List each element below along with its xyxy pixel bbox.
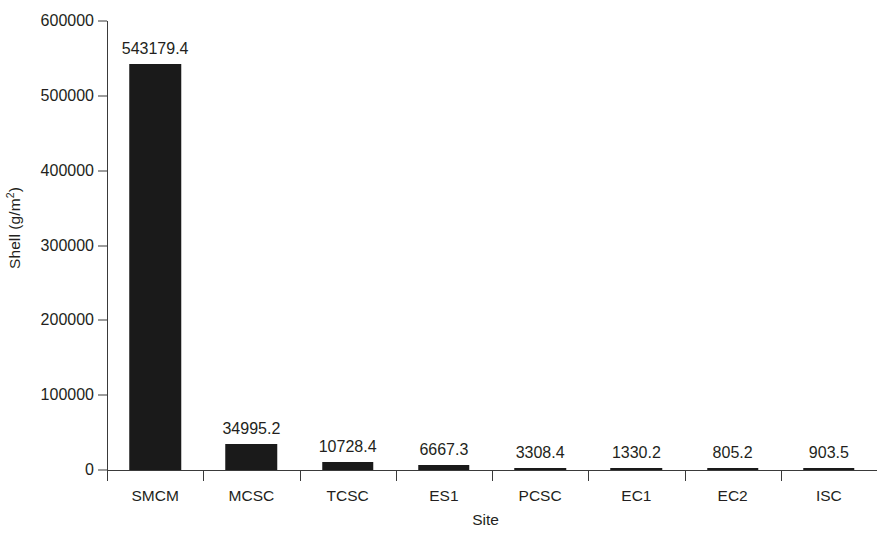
bar-value-label: 1330.2 [612, 444, 661, 462]
bar-group: 3308.4 [492, 21, 588, 470]
y-axis-tick-label: 500000 [0, 87, 94, 105]
bar [226, 444, 277, 470]
bar [418, 465, 469, 470]
x-axis-category-label: EC2 [718, 487, 748, 505]
y-axis-tick-mark [98, 320, 107, 321]
plot-area: 543179.434995.210728.46667.33308.41330.2… [107, 21, 877, 470]
bar [129, 64, 180, 470]
bar-group: 6667.3 [396, 21, 492, 470]
x-axis-tick-mark [685, 470, 686, 481]
x-axis-category-label: ES1 [429, 487, 458, 505]
y-axis-title: Shell (g/m2) [6, 78, 32, 378]
y-axis-tick-mark [98, 470, 107, 471]
x-axis-tick-mark [781, 470, 782, 481]
bar [514, 468, 565, 471]
x-axis-category-label: SMCM [131, 487, 178, 505]
x-axis-category-label: ISC [816, 487, 842, 505]
x-axis-category-label: MCSC [229, 487, 275, 505]
bar-value-label: 10728.4 [319, 438, 377, 456]
bar-group: 34995.2 [203, 21, 299, 470]
x-axis-title: Site [0, 511, 883, 529]
bar [611, 468, 662, 471]
bar [322, 462, 373, 470]
bar-value-label: 543179.4 [122, 40, 189, 58]
bar [707, 468, 758, 471]
y-axis-tick-label: 300000 [0, 237, 94, 255]
y-axis-tick-mark [98, 95, 107, 96]
y-axis-title-superscript: 2 [4, 192, 16, 198]
x-axis-tick-mark [492, 470, 493, 481]
bar-value-label: 903.5 [809, 444, 849, 462]
x-axis-category-label: EC1 [621, 487, 651, 505]
bar-value-label: 3308.4 [516, 444, 565, 462]
y-axis-tick-label: 100000 [0, 386, 94, 404]
bar-group: 805.2 [685, 21, 781, 470]
x-axis-title-text: Site [472, 511, 499, 529]
bar-group: 10728.4 [300, 21, 396, 470]
y-axis-tick-label: 200000 [0, 311, 94, 329]
bar-value-label: 34995.2 [222, 420, 280, 438]
x-axis-tick-mark [588, 470, 589, 481]
y-axis-tick-label: 400000 [0, 162, 94, 180]
x-axis-tick-mark [107, 470, 108, 481]
y-axis-title-tail: ) [6, 187, 23, 192]
bar-value-label: 805.2 [713, 444, 753, 462]
bar-value-label: 6667.3 [419, 441, 468, 459]
x-axis-tick-mark [203, 470, 204, 481]
bar [803, 468, 854, 471]
bar-group: 1330.2 [588, 21, 684, 470]
bar-chart: Shell (g/m2) 010000020000030000040000050… [0, 0, 883, 535]
y-axis-tick-mark [98, 395, 107, 396]
x-axis-category-label: TCSC [327, 487, 369, 505]
y-axis-tick-mark [98, 170, 107, 171]
y-axis-title-base: Shell (g/m [6, 198, 23, 269]
bar-group: 903.5 [781, 21, 877, 470]
y-axis-tick-label: 0 [0, 461, 94, 479]
y-axis-tick-label: 600000 [0, 12, 94, 30]
y-axis-tick-mark [98, 21, 107, 22]
x-axis-tick-mark [300, 470, 301, 481]
bar-group: 543179.4 [107, 21, 203, 470]
x-axis-category-label: PCSC [519, 487, 562, 505]
y-axis-tick-mark [98, 245, 107, 246]
x-axis-tick-mark [396, 470, 397, 481]
